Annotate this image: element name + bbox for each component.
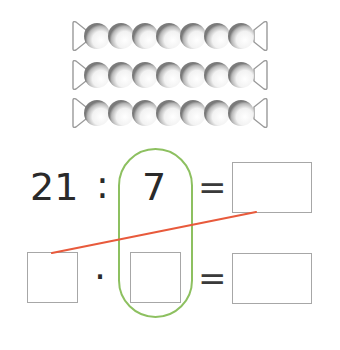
equals-sign-bottom: = <box>198 261 227 295</box>
divisor: 7 <box>142 168 166 206</box>
bead-strip-icon <box>70 59 270 91</box>
bead-strip-2 <box>70 59 270 91</box>
factor1-input-box[interactable] <box>27 252 78 303</box>
bead-strip-icon <box>70 97 270 129</box>
connector-line <box>52 212 256 253</box>
division-operator: : <box>96 166 109 204</box>
product-input-box[interactable] <box>232 253 312 304</box>
dividend: 21 <box>30 168 78 206</box>
multiplication-operator: · <box>94 258 106 296</box>
bead-strip-1 <box>70 20 270 52</box>
bead-strip-3 <box>70 97 270 129</box>
equals-sign-top: = <box>198 170 227 204</box>
quotient-input-box[interactable] <box>232 162 312 213</box>
bead-strip-icon <box>70 20 270 52</box>
factor2-input-box[interactable] <box>130 252 181 303</box>
